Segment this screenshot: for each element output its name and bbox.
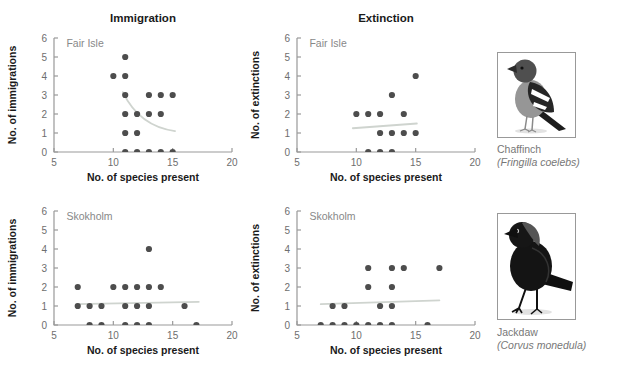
data-point — [122, 130, 128, 136]
data-point — [134, 322, 140, 328]
axes — [54, 211, 232, 325]
y-tick-label: 6 — [284, 206, 290, 217]
data-point — [146, 92, 152, 98]
bird-latin-name: (Fringilla coelebs) — [497, 156, 627, 169]
y-tick-label: 0 — [41, 320, 47, 331]
data-point — [146, 246, 152, 252]
trend-line — [353, 124, 417, 129]
x-tick-label: 15 — [410, 330, 422, 341]
x-axis-label: No. of species present — [87, 171, 200, 183]
data-point — [389, 130, 395, 136]
y-tick-label: 6 — [284, 33, 290, 44]
data-point — [146, 284, 152, 290]
data-point — [146, 149, 152, 155]
data-point — [377, 130, 383, 136]
data-point — [389, 303, 395, 309]
data-point — [134, 111, 140, 117]
x-tick-label: 5 — [294, 330, 300, 341]
x-tick-label: 20 — [226, 157, 238, 168]
x-tick-label: 5 — [51, 330, 57, 341]
data-point — [365, 111, 371, 117]
data-point — [341, 303, 347, 309]
x-tick-label: 5 — [51, 157, 57, 168]
data-point — [122, 303, 128, 309]
data-point — [87, 322, 93, 328]
y-tick-label: 3 — [284, 263, 290, 274]
y-tick-label: 5 — [41, 52, 47, 63]
chaffinch-caption: Chaffinch (Fringilla coelebs) — [497, 143, 627, 168]
axes — [54, 38, 232, 152]
y-tick-label: 2 — [41, 282, 47, 293]
y-tick-label: 5 — [41, 225, 47, 236]
fair-isle-extinction-plot: 01234565101520Fair IsleNo. of extinction… — [245, 34, 490, 186]
data-point — [401, 265, 407, 271]
y-tick-label: 1 — [41, 128, 47, 139]
x-axis-label: No. of species present — [330, 171, 443, 183]
bird-common-name: Jackdaw — [497, 326, 627, 339]
x-tick-label: 10 — [108, 157, 120, 168]
data-point — [122, 54, 128, 60]
y-tick-label: 1 — [284, 301, 290, 312]
data-point — [330, 322, 336, 328]
y-tick-label: 2 — [284, 109, 290, 120]
data-point — [110, 284, 116, 290]
y-tick-label: 1 — [284, 128, 290, 139]
x-axis-label: No. of species present — [87, 344, 200, 356]
y-axis-label: No. of immigrations — [6, 219, 18, 318]
data-point — [318, 322, 324, 328]
y-axis-label: No. of extinctions — [249, 51, 261, 139]
chaffinch-photo — [497, 52, 576, 138]
data-point — [389, 322, 395, 328]
data-point — [122, 92, 128, 98]
y-tick-label: 6 — [41, 33, 47, 44]
data-point — [134, 149, 140, 155]
chaffinch-illustration — [498, 53, 575, 137]
y-tick-label: 4 — [41, 244, 47, 255]
data-point — [122, 284, 128, 290]
y-tick-label: 0 — [41, 147, 47, 158]
data-point — [146, 303, 152, 309]
data-point — [158, 92, 164, 98]
data-point — [98, 322, 104, 328]
data-point — [134, 130, 140, 136]
figure-canvas: Immigration Extinction 01234565101520Fai… — [0, 0, 633, 369]
data-point — [98, 303, 104, 309]
data-point — [436, 265, 442, 271]
y-tick-label: 3 — [284, 90, 290, 101]
data-point — [401, 111, 407, 117]
y-tick-label: 0 — [284, 147, 290, 158]
data-point — [122, 111, 128, 117]
data-point — [330, 303, 336, 309]
data-point — [75, 303, 81, 309]
data-point — [389, 92, 395, 98]
data-point — [413, 130, 419, 136]
data-points — [353, 73, 419, 155]
data-point — [413, 73, 419, 79]
y-axis-label: No. of immigrations — [6, 46, 18, 145]
x-tick-label: 10 — [108, 330, 120, 341]
island-label: Skokholm — [66, 210, 112, 222]
axes — [297, 38, 475, 152]
bird-latin-name: (Corvus monedula) — [497, 339, 627, 352]
data-point — [134, 284, 140, 290]
data-point — [122, 149, 128, 155]
column-title-immigration: Immigration — [54, 12, 232, 24]
data-point — [365, 149, 371, 155]
skokholm-immigration-plot: 01234565101520SkokholmNo. of immigration… — [2, 207, 247, 359]
data-point — [170, 92, 176, 98]
y-axis-label: No. of extinctions — [249, 224, 261, 312]
x-tick-label: 10 — [351, 157, 363, 168]
x-tick-label: 15 — [167, 330, 179, 341]
y-tick-label: 4 — [41, 71, 47, 82]
data-point — [110, 73, 116, 79]
data-point — [377, 149, 383, 155]
y-tick-label: 5 — [284, 52, 290, 63]
jackdaw-illustration — [498, 214, 575, 319]
x-tick-label: 10 — [351, 330, 363, 341]
x-tick-label: 5 — [294, 157, 300, 168]
y-tick-label: 0 — [284, 320, 290, 331]
y-tick-label: 3 — [41, 90, 47, 101]
x-tick-label: 20 — [226, 330, 238, 341]
y-tick-label: 3 — [41, 263, 47, 274]
bird-common-name: Chaffinch — [497, 143, 627, 156]
